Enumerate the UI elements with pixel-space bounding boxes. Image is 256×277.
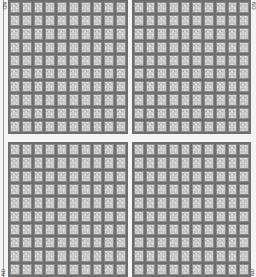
grid-cell [81,157,91,168]
grid-cell [104,250,114,261]
grid-cell [69,250,79,261]
grid-cell [181,94,191,105]
grid-cell [228,157,238,168]
grid-cell [216,28,226,39]
grid-cell [57,108,67,119]
grid-cell [10,2,20,13]
grid-cell [239,15,249,26]
grid-cell [45,108,55,119]
grid-cell [93,94,103,105]
grid-cell [22,184,32,195]
grid-cell [45,264,55,275]
grid-cell [104,42,114,53]
grid-cell [93,264,103,275]
grid-cell [204,55,214,66]
grid-cell [81,42,91,53]
grid-cell [146,250,156,261]
grid-cell [169,108,179,119]
grid-cell [216,264,226,275]
grid-cell [45,157,55,168]
grid-cell [169,224,179,235]
grid-cell [10,171,20,182]
grid-cell [146,81,156,92]
grid-cell [169,211,179,222]
grid-cell [116,264,126,275]
grid-cell [146,15,156,26]
grid-cell [69,15,79,26]
corner-label-top-left: ND [2,2,7,10]
grid-cell [34,197,44,208]
grid-cell [146,68,156,79]
grid-cell [192,157,202,168]
grid-cell [239,237,249,248]
grid-cell [169,121,179,132]
grid-cell [81,197,91,208]
grid-cell [216,237,226,248]
grid-cell [228,171,238,182]
grid-cell [204,237,214,248]
grid-cell [69,197,79,208]
grid-cell [134,157,144,168]
corner-label-bottom-left: ND [1,268,6,276]
grid-cell [157,144,167,155]
grid-cell [157,121,167,132]
grid-cell [239,250,249,261]
grid-cell [228,237,238,248]
grid-cell [181,42,191,53]
grid-cell [192,121,202,132]
grid-cell [22,224,32,235]
grid-cell [228,144,238,155]
grid-cell [181,68,191,79]
grid-cell [116,144,126,155]
grid-cell [93,55,103,66]
grid-cell [192,15,202,26]
grid-cell [181,197,191,208]
grid-cell [69,144,79,155]
grid-cell [69,237,79,248]
grid-cell [157,68,167,79]
grid-cell [228,15,238,26]
grid-cell [216,171,226,182]
grid-cell [228,250,238,261]
grid-cell [134,55,144,66]
grid-cell [134,94,144,105]
grid-cell [134,237,144,248]
grid-cell [157,171,167,182]
grid-cell [134,184,144,195]
grid-cell [239,28,249,39]
grid-cell [45,144,55,155]
grid-cell [157,2,167,13]
grid-cell [216,42,226,53]
grid-cell [146,237,156,248]
grid-cell [181,144,191,155]
grid-cell [69,224,79,235]
grid-cell [134,15,144,26]
grid-cell [146,211,156,222]
grid-cell [157,237,167,248]
grid-cell [93,121,103,132]
grid-cell [181,55,191,66]
grid-cell [146,94,156,105]
grid-cell [34,68,44,79]
grid-cell [57,250,67,261]
grid-cell [104,144,114,155]
grid-cell [116,184,126,195]
grid-cell [104,15,114,26]
grid-cell [216,157,226,168]
grid-cell [181,184,191,195]
grid-cell [104,197,114,208]
grid-cell [116,81,126,92]
grid-cell [216,55,226,66]
grid-cell [116,121,126,132]
grid-cell [45,171,55,182]
corner-label-top-right: NO [251,2,256,10]
grid-cell [146,55,156,66]
grid-cell [239,264,249,275]
grid-cell [169,55,179,66]
grid-cell [69,2,79,13]
grid-cell [116,171,126,182]
grid-cell [146,121,156,132]
grid-cell [134,197,144,208]
grid-cell [192,68,202,79]
grid-cell [22,144,32,155]
